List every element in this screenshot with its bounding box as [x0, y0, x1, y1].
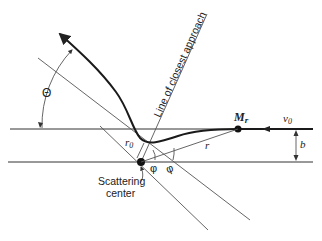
theta-label: Θ	[42, 86, 51, 100]
phi-arc	[153, 150, 155, 160]
r0-dimension	[137, 143, 144, 158]
phi-label-2: φ	[164, 161, 175, 175]
b-arrow-up-icon	[294, 130, 299, 136]
mass-label: Mr	[233, 110, 249, 125]
scattering-center-label-line1: Scattering	[98, 175, 145, 187]
outgoing-asymptote-line	[38, 58, 250, 220]
velocity-arrowhead-icon	[262, 126, 270, 132]
phi-label: φ	[150, 162, 157, 174]
scattering-center-label-line2: center	[106, 187, 136, 199]
line-of-closest-approach-label: Line of closest approach	[151, 10, 208, 119]
impact-parameter-label: b	[300, 138, 306, 150]
r-label: r	[205, 139, 210, 151]
scattering-diagram: Line of closest approach Θ Mr v0 b r0 r …	[0, 0, 322, 241]
velocity-label: v0	[283, 112, 292, 126]
b-arrow-down-icon	[294, 155, 299, 161]
r0-label: r0	[125, 136, 133, 150]
phi-arc-2	[173, 148, 174, 160]
trajectory-curve	[60, 34, 238, 142]
